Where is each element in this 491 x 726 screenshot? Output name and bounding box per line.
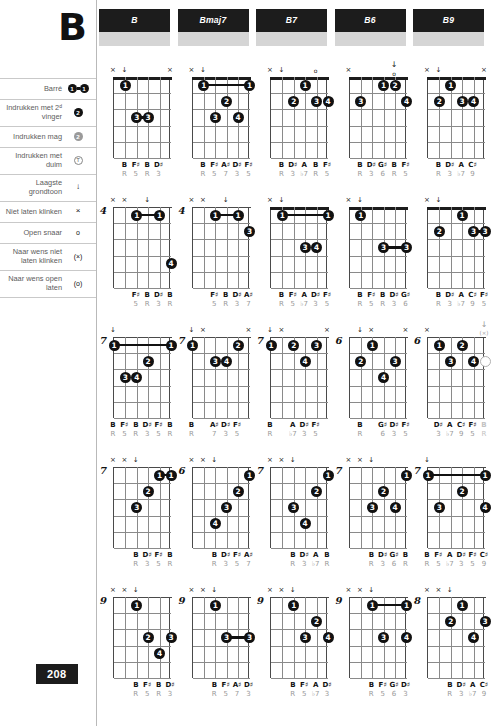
note-labels: BRF♯5A♯7D♯3 xyxy=(192,678,249,702)
fret-grid: 113 xyxy=(192,207,249,288)
fret-line xyxy=(271,532,328,533)
note-labels: BRD♯3F♯5BR xyxy=(113,548,170,572)
chord-diagram[interactable]: ↓××61234BRG♯6D♯3F♯5 xyxy=(335,326,411,454)
fret-position-number: 9 xyxy=(336,595,343,606)
finger-dot: 2 xyxy=(143,486,154,497)
note-label-cell: D♯3 xyxy=(399,681,413,699)
chord-diagram[interactable]: ×↓133BRF♯5BRD♯3G♯6 xyxy=(335,196,411,324)
string-line xyxy=(148,207,149,288)
finger-dot: 3 xyxy=(300,632,311,643)
fret-grid: 1234 xyxy=(427,597,484,678)
chord-diagram[interactable]: ××↓4113F♯5BRD♯3A♯7 xyxy=(178,196,254,324)
fret-grid: 11234 xyxy=(427,467,484,548)
finger-dot: 2 xyxy=(445,616,456,627)
string-markers: ××↓ xyxy=(113,196,170,207)
mute-marker: × xyxy=(109,66,118,75)
fret-line xyxy=(350,93,407,94)
chord-diagram[interactable]: ↓711234BRF♯5A♭7D♯3F♯5C♯9 xyxy=(413,456,489,584)
fret-line xyxy=(114,646,171,647)
chord-diagram[interactable]: ×↓1233BRD♯3A♭7C♯9F♯5 xyxy=(413,196,489,324)
mute-marker: × xyxy=(120,586,129,595)
fret-line xyxy=(114,386,171,387)
optional-finger-dot-icon: 2 xyxy=(67,132,89,141)
mute-marker: × xyxy=(187,196,196,205)
string-line xyxy=(125,597,126,678)
fret-line xyxy=(271,646,328,647)
chord-name-banner: B6 xyxy=(335,9,406,46)
finger-dot: 1 xyxy=(434,340,445,351)
chord-diagram[interactable]: ×↓×133BRF♯5BRD♯3 xyxy=(99,66,175,194)
scale-degree: R xyxy=(163,560,177,569)
string-line xyxy=(204,337,205,418)
scale-degree: 3 xyxy=(399,690,413,699)
note-labels: BRF♯5BRD♯3G♯6 xyxy=(349,288,406,312)
mute-marker: × xyxy=(266,586,275,595)
note-labels: BRD♯3A♭7C♯9F♯5 xyxy=(427,288,484,312)
chord-diagram[interactable]: ××↓61234BRD♯3F♯5A♯7 xyxy=(178,456,254,584)
nut-line xyxy=(270,597,329,598)
fret-line xyxy=(193,93,250,94)
fret-line xyxy=(193,239,250,240)
fret-line xyxy=(193,516,250,517)
chord-diagram[interactable]: ××↓4114F♯5BRD♯3BR xyxy=(99,196,175,324)
chord-diagram[interactable]: ××↓71123BRD♯3F♯5BR xyxy=(99,456,175,584)
string-line xyxy=(215,337,216,418)
note-label-cell: F♯5 xyxy=(399,161,413,179)
fretboard: 1234 xyxy=(349,77,406,158)
chord-diagram[interactable]: ××↓71234BRD♯3G♯6BR xyxy=(335,456,411,584)
optional-open-icon: (o) xyxy=(67,280,89,287)
mute-marker: × xyxy=(423,66,432,75)
chord-diagram[interactable]: ×↓o1234BRD♯3A♭7BRF♯5 xyxy=(256,66,332,194)
fretboard: 11234 xyxy=(192,77,249,158)
chord-row: ××↓71123BRD♯3F♯5BR××↓61234BRD♯3F♯5A♯7××↓… xyxy=(99,456,485,586)
mute-marker: × xyxy=(277,456,286,465)
fretboard: 81234 xyxy=(427,597,484,678)
chord-diagram[interactable]: ××↓71234BRD♯3A♭7BR xyxy=(256,456,332,584)
finger-dot: 3 xyxy=(131,112,142,123)
string-markers: ↓ xyxy=(113,326,170,337)
string-line xyxy=(294,207,295,288)
finger-dot: 2 xyxy=(355,356,366,367)
root-arrow-marker: ↓ xyxy=(198,66,207,75)
fret-line xyxy=(428,532,485,533)
chord-diagram[interactable]: ↓××71234BRA♯7D♯3F♯5 xyxy=(178,326,254,454)
chord-diagram[interactable]: ×↓(×)61234D♯3A♭7C♯9F♯5BR xyxy=(413,326,489,454)
string-markers: ××↓ xyxy=(427,586,484,597)
note-name: G♯ xyxy=(399,291,413,300)
root-arrow-marker: ↓ xyxy=(187,326,196,335)
mute-marker: × xyxy=(401,326,410,335)
chord-diagram[interactable]: ×↓×1234BRD♯3A♭7C♯9 xyxy=(413,66,489,194)
chord-diagram[interactable]: ×↓11234BRF♯5A♯7D♯3F♯5 xyxy=(178,66,254,194)
note-name: F♯ xyxy=(309,421,323,430)
chord-diagram[interactable]: ××↓9133BRF♯5A♯7D♯3 xyxy=(178,586,254,714)
chord-diagram[interactable]: ↓711234BRF♯5BRD♯3F♯5BR xyxy=(99,326,175,454)
chord-diagram[interactable]: ××↓91234BRF♯5BRD♯3 xyxy=(99,586,175,714)
chord-diagram[interactable]: ×↓1134BRF♯5A♭7D♯3F♯5 xyxy=(256,196,332,324)
string-line xyxy=(462,77,463,158)
scale-degree: 5 xyxy=(399,170,413,179)
finger-dot: 1 xyxy=(109,340,120,351)
string-line xyxy=(215,467,216,548)
finger-dot: 3 xyxy=(480,616,491,627)
open-root-marker: ↓o xyxy=(390,60,399,78)
fret-position-number: 9 xyxy=(179,595,186,606)
fret-line xyxy=(350,386,407,387)
chord-diagram[interactable]: ××↓81234BRD♯3A♭7C♯9 xyxy=(413,586,489,714)
barre-line xyxy=(114,344,171,347)
note-label-cell: F♯5 xyxy=(320,291,334,309)
finger-dot: 4 xyxy=(300,518,311,529)
page-number-badge: 208 xyxy=(36,664,78,684)
fret-grid: 1234 xyxy=(113,597,170,678)
chord-diagram[interactable]: ×↓o1234BRD♯3G♯6BRF♯5 xyxy=(335,66,411,194)
string-line xyxy=(439,207,440,288)
note-labels: BRF♯5BRD♯3 xyxy=(113,158,170,182)
finger-dot: 4 xyxy=(323,96,334,107)
chord-diagram[interactable]: ××↓91134BRF♯5G♯6D♯3 xyxy=(335,586,411,714)
fret-position-number: 7 xyxy=(257,335,264,346)
chord-diagram[interactable]: ↓××71234BRA♭7D♯3F♯5 xyxy=(256,326,332,454)
string-markers: ×↓ xyxy=(192,66,249,77)
fret-grid: 1234 xyxy=(270,77,327,158)
chord-diagram[interactable]: ××↓91234BRF♯5A♭7D♯3 xyxy=(256,586,332,714)
finger-dot: 3 xyxy=(120,372,131,383)
fretboard: 133 xyxy=(113,77,170,158)
